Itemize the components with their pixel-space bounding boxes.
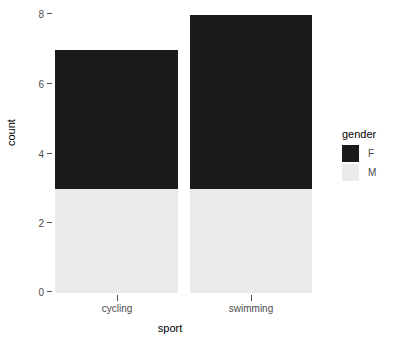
plot-panel: cycling swimming sport [0,0,340,350]
x-axis-title: sport [0,322,340,334]
bar-swimming-segment-m [190,189,312,293]
legend-item-f: F [342,144,399,163]
bar-swimming-segment-f [190,15,312,189]
legend: gender F M [342,128,399,182]
bar-cycling-segment-m [55,189,178,293]
bar-swimming [190,15,312,293]
x-tick-mark-swimming [251,295,252,301]
bar-chart-figure: count 8 6 4 2 0 cycling [0,0,399,350]
legend-label-f: F [368,148,374,159]
bar-cycling-segment-f [55,50,178,189]
legend-item-m: M [342,163,399,182]
x-tick-label-cycling: cycling [102,303,133,314]
x-tick-label-swimming: swimming [229,303,273,314]
x-tick-mark-cycling [117,295,118,301]
legend-label-m: M [368,167,376,178]
legend-swatch-f [342,145,359,162]
bar-cycling [55,50,178,293]
legend-swatch-m [342,164,359,181]
legend-title: gender [342,128,399,140]
